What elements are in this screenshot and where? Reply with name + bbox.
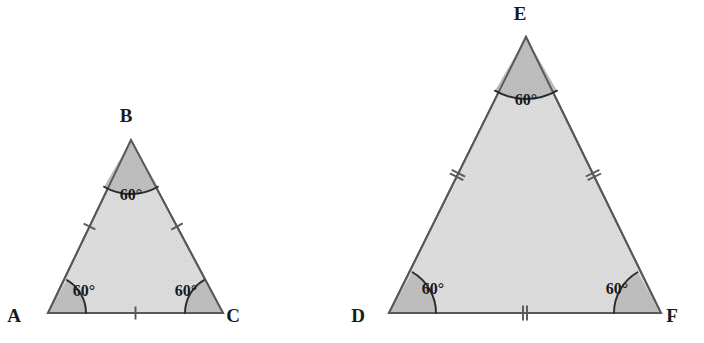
angle-label-a: 60° xyxy=(73,282,95,299)
vertex-label-c: C xyxy=(226,305,240,326)
geometry-figure: 60°60°60°ABC60°60°60°DEF xyxy=(0,0,704,343)
vertex-label-b: B xyxy=(120,105,133,126)
angle-label-e: 60° xyxy=(515,91,537,108)
vertex-label-e: E xyxy=(514,3,527,24)
vertex-label-d: D xyxy=(351,305,365,326)
vertex-label-a: A xyxy=(7,305,21,326)
angle-label-c: 60° xyxy=(175,282,197,299)
geometry-canvas: 60°60°60°ABC60°60°60°DEF xyxy=(0,0,704,343)
angle-label-d: 60° xyxy=(422,280,444,297)
vertex-label-f: F xyxy=(666,305,678,326)
triangle-abc: 60°60°60°ABC xyxy=(7,105,240,326)
triangles-layer: 60°60°60°ABC60°60°60°DEF xyxy=(7,3,678,326)
angle-label-f: 60° xyxy=(606,280,628,297)
angle-wedge-e xyxy=(495,37,557,99)
triangle-def: 60°60°60°DEF xyxy=(351,3,678,326)
angle-label-b: 60° xyxy=(120,186,142,203)
